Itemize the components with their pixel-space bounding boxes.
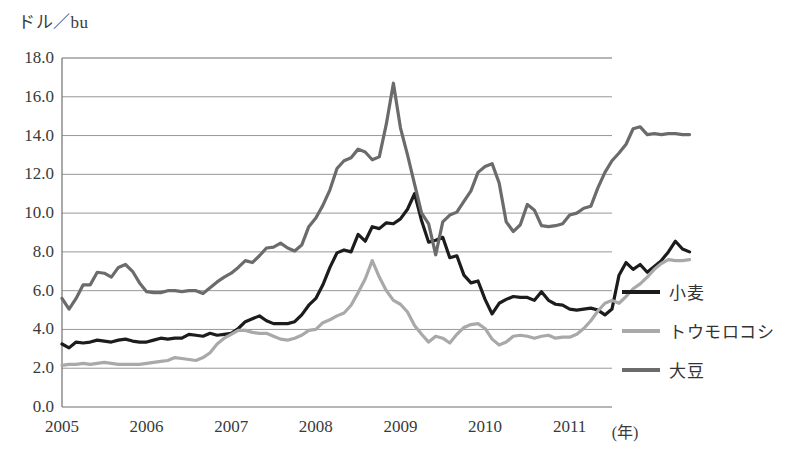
legend-swatch-icon [622, 329, 660, 333]
x-axis-tick-label: 2007 [196, 417, 266, 437]
y-axis-tick-label: 6.0 [2, 281, 54, 301]
y-axis-tick-label: 2.0 [2, 358, 54, 378]
legend-label: 大豆 [669, 357, 704, 382]
y-axis-tick-label: 16.0 [2, 87, 54, 107]
legend-swatch-icon [622, 368, 660, 372]
series-line-1 [62, 260, 690, 366]
x-axis-tick-label: 2010 [450, 417, 520, 437]
y-axis-tick-label: 0.0 [2, 397, 54, 417]
x-axis-tick-label: 2009 [365, 417, 435, 437]
series-line-2 [62, 83, 690, 309]
chart-legend: 小麦トウモロコシ大豆 [622, 272, 797, 389]
x-axis-tick-label: 2008 [281, 417, 351, 437]
x-axis-unit-label: (年) [612, 419, 639, 443]
y-axis-tick-label: 4.0 [2, 319, 54, 339]
legend-item-1: トウモロコシ [622, 311, 797, 350]
line-chart-plot [0, 0, 799, 460]
y-axis-tick-label: 12.0 [2, 164, 54, 184]
y-axis-tick-label: 10.0 [2, 203, 54, 223]
legend-label: 小麦 [669, 279, 704, 304]
chart-container: ドル／bu 0.02.04.06.08.010.012.014.016.018.… [0, 0, 799, 460]
y-axis-tick-label: 14.0 [2, 126, 54, 146]
x-axis-tick-label: 2011 [535, 417, 605, 437]
x-axis-tick-label: 2005 [27, 417, 97, 437]
x-axis-tick-label: 2006 [112, 417, 182, 437]
y-axis-tick-label: 18.0 [2, 48, 54, 68]
plot-area-wrapper [0, 0, 799, 460]
legend-item-2: 大豆 [622, 350, 797, 389]
legend-item-0: 小麦 [622, 272, 797, 311]
legend-label: トウモロコシ [669, 318, 774, 343]
y-axis-tick-label: 8.0 [2, 242, 54, 262]
legend-swatch-icon [622, 290, 660, 294]
